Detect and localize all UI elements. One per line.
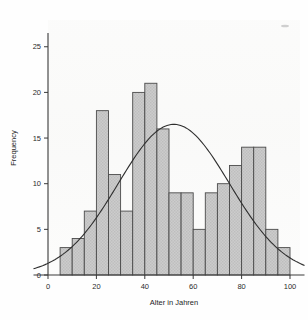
histogram-bar xyxy=(217,184,229,275)
histogram-bar xyxy=(133,92,145,275)
histogram-bar xyxy=(181,193,193,275)
histogram-bar xyxy=(205,193,217,275)
y-tick-label: 15 xyxy=(33,134,41,143)
histogram-bar xyxy=(278,248,290,275)
x-axis-title: Alter in Jahren xyxy=(150,298,198,307)
scan-artifact-speck xyxy=(281,25,289,28)
x-tick-label: 20 xyxy=(92,282,100,291)
y-tick-label: 0 xyxy=(37,271,41,280)
histogram-chart: 0510152025020406080100 Alter in Jahren F… xyxy=(0,0,308,320)
histogram-bar xyxy=(242,147,254,275)
histogram-bar xyxy=(96,111,108,275)
y-tick-label: 20 xyxy=(33,88,41,97)
chart-svg: 0510152025020406080100 Alter in Jahren F… xyxy=(0,0,308,320)
histogram-bar xyxy=(169,193,181,275)
y-axis-title: Frequency xyxy=(9,130,18,166)
x-tick-label: 40 xyxy=(141,282,149,291)
y-tick-label: 10 xyxy=(33,179,41,188)
x-tick-label: 0 xyxy=(46,282,50,291)
x-tick-label: 60 xyxy=(189,282,197,291)
histogram-bar xyxy=(72,238,84,275)
histogram-bar xyxy=(121,211,133,275)
y-tick-label: 5 xyxy=(37,225,41,234)
histogram-bar xyxy=(230,165,242,275)
histogram-bar xyxy=(254,147,266,275)
histogram-bar xyxy=(157,129,169,275)
x-tick-label: 80 xyxy=(237,282,245,291)
bars-group xyxy=(60,83,290,275)
x-tick-label: 100 xyxy=(284,282,297,291)
histogram-bar xyxy=(266,229,278,275)
histogram-bar xyxy=(193,229,205,275)
y-tick-label: 25 xyxy=(33,42,41,51)
histogram-bar xyxy=(145,83,157,275)
